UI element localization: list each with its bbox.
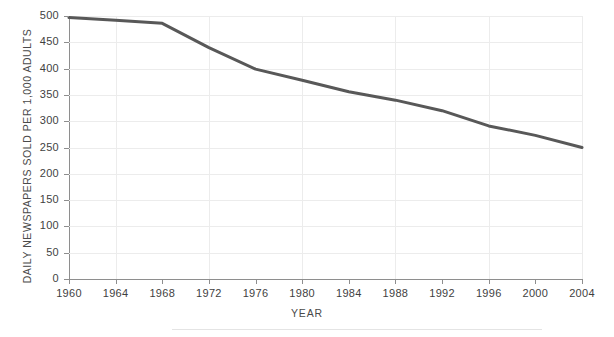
x-tick-label: 2000 <box>512 287 558 299</box>
x-tick-label: 1976 <box>233 287 279 299</box>
x-tick-mark <box>395 279 396 284</box>
y-tick-label: 450 <box>0 35 59 47</box>
x-tick-mark <box>162 279 163 284</box>
newspaper-circulation-chart: DAILY NEWSPAPERS SOLD PER 1,000 ADULTS 5… <box>0 0 614 337</box>
x-tick-label: 1992 <box>419 287 465 299</box>
y-tick-mark <box>64 121 69 122</box>
x-tick-mark <box>256 279 257 284</box>
x-tick-label: 1996 <box>466 287 512 299</box>
x-tick-label: 1964 <box>93 287 139 299</box>
x-tick-label: 1972 <box>186 287 232 299</box>
y-tick-label: 150 <box>0 193 59 205</box>
x-tick-mark <box>349 279 350 284</box>
y-tick-label: 200 <box>0 167 59 179</box>
y-tick-mark <box>64 148 69 149</box>
y-tick-label: 100 <box>0 219 59 231</box>
x-tick-mark <box>442 279 443 284</box>
footer-divider <box>172 329 542 330</box>
y-tick-label: 250 <box>0 141 59 153</box>
y-tick-mark <box>64 253 69 254</box>
y-tick-label: 350 <box>0 88 59 100</box>
x-tick-label: 1984 <box>326 287 372 299</box>
x-tick-label: 1960 <box>46 287 92 299</box>
y-tick-label: 400 <box>0 62 59 74</box>
y-tick-mark <box>64 95 69 96</box>
x-axis-line <box>69 279 583 280</box>
x-tick-label: 1968 <box>139 287 185 299</box>
x-tick-mark <box>302 279 303 284</box>
y-tick-mark <box>64 174 69 175</box>
x-tick-label: 1980 <box>279 287 325 299</box>
x-tick-mark <box>582 279 583 284</box>
y-tick-label: 500 <box>0 9 59 21</box>
x-axis-title: YEAR <box>0 307 614 319</box>
x-tick-mark <box>116 279 117 284</box>
plot-area <box>69 16 582 279</box>
x-tick-mark <box>489 279 490 284</box>
data-series-line <box>69 16 582 279</box>
y-tick-mark <box>64 226 69 227</box>
y-tick-label: 50 <box>0 246 59 258</box>
x-tick-label: 2004 <box>559 287 605 299</box>
y-tick-mark <box>64 42 69 43</box>
y-tick-mark <box>64 200 69 201</box>
x-tick-mark <box>209 279 210 284</box>
x-tick-mark <box>535 279 536 284</box>
y-tick-mark <box>64 16 69 17</box>
x-tick-label: 1988 <box>372 287 418 299</box>
x-tick-mark <box>69 279 70 284</box>
y-tick-mark <box>64 69 69 70</box>
y-tick-label: 0 <box>0 272 59 284</box>
chart-title-cropped <box>60 0 240 3</box>
y-tick-label: 300 <box>0 114 59 126</box>
